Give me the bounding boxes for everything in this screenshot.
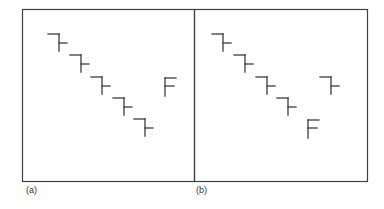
panel-b-frame [195,10,368,182]
panel-a-glyphs [48,34,176,136]
stair-glyph [234,55,253,72]
panel-b [195,10,368,182]
panel-b-label: (b) [196,185,207,195]
stair-glyph [320,77,339,94]
stair-glyph [256,77,275,94]
panel-a [23,10,195,182]
panel-a-frame [23,10,195,182]
stair-glyph [212,34,231,51]
f-glyph [308,120,319,138]
figure-canvas [0,0,384,209]
stair-glyph [91,77,110,94]
stair-glyph [48,34,67,51]
stair-glyph [134,119,153,136]
panel-b-glyphs [212,34,339,138]
figure: (a) (b) [0,0,384,209]
stair-glyph [113,98,132,115]
panel-a-label: (a) [26,185,37,195]
stair-glyph [277,98,296,115]
f-glyph [165,78,176,96]
stair-glyph [70,55,89,72]
